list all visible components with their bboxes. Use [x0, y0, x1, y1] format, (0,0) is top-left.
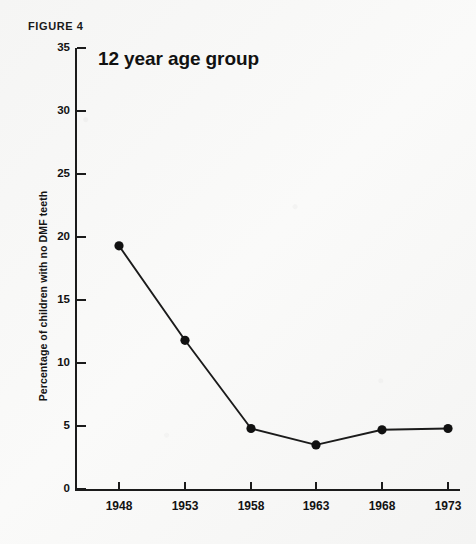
x-tick-mark — [184, 482, 186, 490]
x-tick-mark — [315, 482, 317, 490]
y-tick-label: 25 — [30, 167, 70, 179]
x-tick-label: 1973 — [423, 499, 473, 513]
paper-texture — [0, 0, 476, 544]
x-axis-line — [75, 489, 460, 491]
plot-area — [0, 0, 476, 544]
y-axis-line — [75, 48, 77, 490]
data-point-marker — [246, 424, 255, 433]
y-tick-label: 10 — [30, 356, 70, 368]
x-tick-mark — [447, 482, 449, 490]
y-tick-mark — [77, 299, 86, 301]
x-tick-label: 1948 — [94, 499, 144, 513]
data-point-marker — [114, 241, 123, 250]
figure-page: FIGURE 4 12 year age group Percentage of… — [0, 0, 476, 544]
y-tick-mark — [77, 362, 86, 364]
x-tick-mark — [250, 482, 252, 490]
data-point-marker — [311, 440, 320, 449]
x-tick-label: 1953 — [160, 499, 210, 513]
y-tick-label: 35 — [30, 41, 70, 53]
y-tick-mark — [77, 173, 86, 175]
x-tick-label: 1963 — [291, 499, 341, 513]
x-tick-mark — [381, 482, 383, 490]
figure-number-label: FIGURE 4 — [28, 20, 84, 32]
y-tick-mark — [77, 47, 86, 49]
x-tick-mark — [118, 482, 120, 490]
data-point-group — [114, 241, 452, 449]
y-tick-label: 0 — [30, 482, 70, 494]
y-tick-label: 20 — [30, 230, 70, 242]
data-point-marker — [377, 425, 386, 434]
y-tick-mark — [77, 488, 86, 490]
y-tick-label: 15 — [30, 293, 70, 305]
data-point-marker — [443, 424, 452, 433]
chart-title: 12 year age group — [98, 48, 259, 70]
y-tick-mark — [77, 236, 86, 238]
y-tick-label: 30 — [30, 104, 70, 116]
data-point-marker — [180, 336, 189, 345]
x-tick-label: 1958 — [226, 499, 276, 513]
data-line-series — [119, 246, 448, 445]
y-tick-mark — [77, 425, 86, 427]
y-tick-mark — [77, 110, 86, 112]
y-tick-label: 5 — [30, 419, 70, 431]
x-tick-label: 1968 — [357, 499, 407, 513]
